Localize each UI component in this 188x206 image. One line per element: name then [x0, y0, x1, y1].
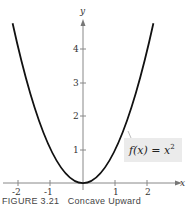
- figure-number: FIGURE 3.21: [2, 196, 59, 206]
- function-label-text: f(x) = x: [129, 144, 170, 157]
- label-pointer: [128, 131, 131, 138]
- x-axis-label: x: [180, 178, 185, 188]
- y-axis-arrow-icon: [81, 19, 86, 26]
- y-tick-label: 3: [73, 78, 79, 88]
- x-tick-label: 2: [145, 187, 151, 197]
- function-label: f(x) = x2: [129, 143, 175, 157]
- chart-canvas: -2 -1 1 2 1 2 3 4 x y: [0, 0, 188, 206]
- figure-caption: FIGURE 3.21 Concave Upward: [2, 196, 141, 206]
- y-tick-label: 2: [73, 111, 79, 121]
- function-label-exponent: 2: [170, 143, 174, 151]
- figure-caption-text: Concave Upward: [68, 196, 141, 206]
- y-tick-label: 1: [73, 145, 79, 155]
- y-axis-label: y: [79, 6, 86, 16]
- y-tick-label: 4: [73, 44, 79, 54]
